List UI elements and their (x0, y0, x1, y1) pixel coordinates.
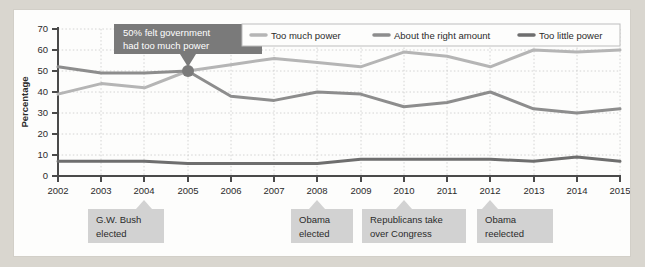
x-tick-label-2015: 2015 (609, 185, 630, 196)
y-tick-label-30: 30 (37, 107, 48, 118)
x-tick-label-2003: 2003 (90, 185, 111, 196)
event-note-line2-obama-elected: elected (299, 228, 330, 239)
event-note-line1-bush: G.W. Bush (96, 214, 141, 225)
legend: Too much power About the right amount To… (242, 24, 620, 46)
event-note-line2-obama-reelected: reelected (485, 228, 524, 239)
x-tick-label-2013: 2013 (523, 185, 544, 196)
x-tick-label-2004: 2004 (133, 185, 154, 196)
y-axis-title: Percentage (19, 76, 30, 127)
y-tick-label-20: 20 (37, 128, 48, 139)
x-tick-label-2005: 2005 (177, 185, 198, 196)
x-tick-label-2007: 2007 (263, 185, 284, 196)
legend-label-too-much-power: Too much power (271, 30, 341, 41)
x-tick-label-2002: 2002 (47, 185, 68, 196)
x-tick-label-2014: 2014 (566, 185, 587, 196)
y-tick-label-10: 10 (37, 149, 48, 160)
x-tick-label-2006: 2006 (220, 185, 241, 196)
y-tick-label-0: 0 (43, 170, 48, 181)
chart-figure: 70 60 50 40 30 20 10 0 Percentage 2002 (14, 10, 630, 256)
legend-label-too-little-power: Too little power (539, 30, 602, 41)
event-note-line2-bush: elected (96, 228, 127, 239)
x-tick-label-2008: 2008 (306, 185, 327, 196)
event-note-line1-republicans: Republicans take (370, 214, 443, 225)
y-tick-label-70: 70 (37, 23, 48, 34)
callout-text-line1: 50% felt government (123, 27, 210, 38)
event-note-line2-republicans: over Congress (370, 228, 432, 239)
x-tick-label-2009: 2009 (350, 185, 371, 196)
line-chart: 70 60 50 40 30 20 10 0 Percentage 2002 (14, 10, 630, 256)
y-tick-label-40: 40 (37, 86, 48, 97)
y-tick-label-60: 60 (37, 44, 48, 55)
legend-label-about-the-right-amount: About the right amount (394, 30, 490, 41)
callout-text-line2: had too much power (123, 40, 209, 51)
x-tick-label-2012: 2012 (479, 185, 500, 196)
x-tick-label-2010: 2010 (393, 185, 414, 196)
x-tick-label-2011: 2011 (437, 185, 457, 196)
event-note-line1-obama-elected: Obama (299, 214, 331, 225)
y-tick-label-50: 50 (37, 65, 48, 76)
event-note-line1-obama-reelected: Obama (485, 214, 517, 225)
